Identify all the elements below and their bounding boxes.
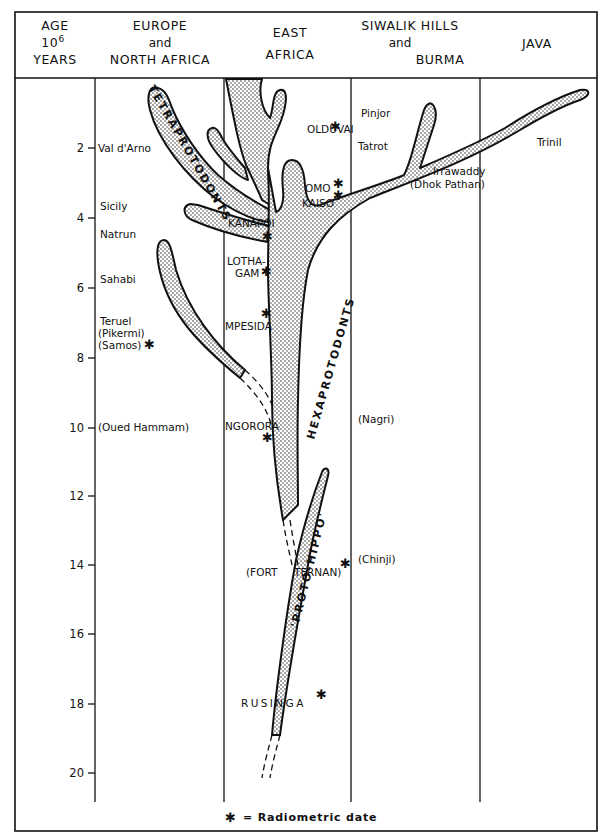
locality-lothagam-line2: GAM: [235, 267, 259, 279]
header-europe-line2: and: [149, 36, 172, 50]
locality-fort-ternan-line1: (FORT: [246, 566, 278, 578]
header-europe-line1: EUROPE: [133, 18, 188, 33]
radiometric-star-kanapoi: ✱: [262, 229, 273, 244]
hippo-phylogeny-diagram: AGE 106 YEARS EUROPE and NORTH AFRICA EA…: [0, 0, 608, 838]
tick-18: 18: [69, 697, 84, 711]
header-age-line3: YEARS: [32, 52, 77, 67]
radiometric-star-rusinga: ✱: [316, 687, 327, 702]
locality-sicily: Sicily: [100, 200, 127, 212]
radiometric-star-olduvai: ✱: [330, 119, 341, 134]
age-axis-ticks: 2 4 6 8 10 12 14 16 18 20: [69, 141, 95, 780]
diagram-canvas: AGE 106 YEARS EUROPE and NORTH AFRICA EA…: [0, 0, 608, 838]
tick-20: 20: [69, 766, 84, 780]
locality-teruel: Teruel: [99, 315, 131, 327]
locality-tatrot: Tatrot: [357, 140, 388, 152]
locality-sahabi: Sahabi: [100, 273, 136, 285]
radiometric-star-fort-ternan: ✱: [340, 556, 351, 571]
header-europe: EUROPE and NORTH AFRICA: [110, 18, 211, 67]
tick-4: 4: [77, 211, 84, 225]
header-east-africa: EAST AFRICA: [266, 25, 315, 62]
legend-star-icon: ✱: [225, 810, 236, 825]
locality-samos: (Samos): [98, 339, 141, 351]
radiometric-star-kaiso: ✱: [333, 188, 344, 203]
localities-java: Trinil: [536, 136, 562, 148]
header-age-line1: AGE: [41, 18, 69, 33]
locality-dhok-pathan: (Dhok Pathan): [410, 178, 485, 190]
radiometric-star-mpesida: ✱: [261, 306, 272, 321]
header-siwalik-line3: BURMA: [416, 52, 465, 67]
phylogeny-tree: [148, 79, 588, 735]
locality-val-darno: Val d'Arno: [98, 142, 151, 154]
radiometric-star-samos: ✱: [144, 337, 155, 352]
tick-2: 2: [77, 141, 84, 155]
legend: ✱ = Radiometric date: [225, 810, 377, 825]
locality-kaiso: KAISO: [302, 197, 334, 209]
locality-pinjor: Pinjor: [361, 107, 391, 119]
locality-chinji: (Chinji): [358, 553, 396, 565]
header-siwalik-line2: and: [389, 36, 412, 50]
locality-natrun: Natrun: [100, 228, 136, 240]
locality-pikermi: (Pikermi): [98, 327, 145, 339]
clade-label-hexaprotodonts: HEXAPROTODONTS: [304, 295, 357, 440]
locality-fort-ternan-line2: TERNAN): [293, 566, 341, 578]
header-java-label: JAVA: [521, 36, 552, 51]
header-siwalik-burma: SIWALIK HILLS and BURMA: [361, 18, 464, 67]
locality-mpesida: MPESIDA: [225, 320, 273, 332]
header-europe-line3: NORTH AFRICA: [110, 52, 211, 67]
locality-rusinga: RUSINGA: [241, 697, 306, 709]
tick-10: 10: [69, 421, 84, 435]
header-java: JAVA: [521, 36, 552, 51]
radiometric-star-lothagam: ✱: [261, 264, 272, 279]
radiometric-star-ngorora: ✱: [262, 430, 273, 445]
legend-text: = Radiometric date: [243, 811, 377, 824]
tick-8: 8: [77, 351, 84, 365]
eastafrica-top-branches: [226, 79, 286, 205]
tick-12: 12: [69, 489, 84, 503]
locality-nagri: (Nagri): [358, 413, 394, 425]
locality-oued-hammam: (Oued Hammam): [98, 421, 189, 433]
header-siwalik-line1: SIWALIK HILLS: [361, 18, 458, 33]
hexaprotodont-main-trunk: [268, 90, 588, 520]
header-eastafrica-line1: EAST: [273, 25, 307, 40]
header-eastafrica-line2: AFRICA: [266, 47, 315, 62]
locality-kanapoi: KANAPOI: [228, 217, 275, 229]
tick-16: 16: [69, 627, 84, 641]
locality-omo: OMO: [305, 182, 331, 194]
tick-14: 14: [69, 558, 84, 572]
header-age-column: AGE 106 YEARS: [32, 18, 77, 67]
header-age-line2: 106: [41, 34, 64, 50]
tick-6: 6: [77, 281, 84, 295]
locality-trinil: Trinil: [536, 136, 562, 148]
locality-irrawaddy: Irrawaddy: [433, 165, 486, 177]
